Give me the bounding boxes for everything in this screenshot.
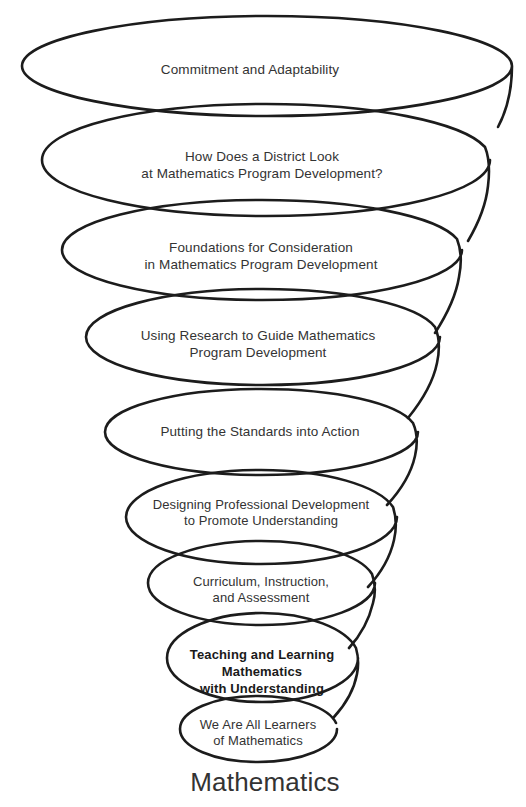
- label-line: We Are All Learners: [200, 717, 317, 732]
- label-line: Mathematics: [222, 664, 302, 679]
- label-line: with Understanding: [200, 680, 324, 695]
- spiral-turn-5: [105, 389, 418, 505]
- label-line: Using Research to Guide Mathematics: [141, 328, 376, 343]
- base-caption: Mathematics: [190, 767, 340, 798]
- loop-label-6: Designing Professional Developmentto Pro…: [153, 497, 370, 530]
- label-line: in Mathematics Program Development: [145, 257, 378, 272]
- label-line: Foundations for Consideration: [169, 240, 353, 255]
- loop-label-2: How Does a District Lookat Mathematics P…: [141, 148, 382, 182]
- loop-label-4: Using Research to Guide MathematicsProgr…: [141, 327, 376, 361]
- loop-label-9: We Are All Learnersof Mathematics: [200, 717, 317, 750]
- label-line: How Does a District Look: [185, 149, 339, 164]
- label-line: to Promote Understanding: [184, 513, 338, 528]
- label-line: and Assessment: [213, 590, 310, 605]
- label-line: Curriculum, Instruction,: [193, 574, 329, 589]
- spiral-figure: Commitment and Adaptability How Does a D…: [0, 0, 526, 807]
- label-line: Designing Professional Development: [153, 497, 370, 512]
- label-line: of Mathematics: [213, 733, 303, 748]
- loop-label-1: Commitment and Adaptability: [161, 61, 339, 78]
- loop-label-3: Foundations for Considerationin Mathemat…: [145, 239, 378, 273]
- label-line: at Mathematics Program Development?: [141, 166, 382, 181]
- loop-label-5: Putting the Standards into Action: [160, 423, 359, 440]
- label-line: Program Development: [190, 345, 327, 360]
- loop-label-8: Teaching and LearningMathematicswith Und…: [190, 647, 334, 698]
- label-line: Teaching and Learning: [190, 647, 334, 662]
- loop-label-7: Curriculum, Instruction,and Assessment: [193, 574, 329, 607]
